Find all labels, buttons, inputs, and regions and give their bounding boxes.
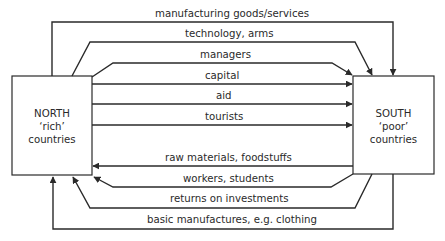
flow-label: capital xyxy=(205,70,239,81)
south-title: SOUTH xyxy=(376,108,412,119)
flow-label: workers, students xyxy=(183,173,274,184)
flow-label: manufacturing goods/services xyxy=(155,8,309,19)
north-box: NORTH ‘rich’ countries xyxy=(12,76,92,175)
flow-label: technology, arms xyxy=(185,28,274,39)
flow-workers-students: workers, students xyxy=(94,173,353,187)
flow-label: basic manufactures, e.g. clothing xyxy=(147,214,317,225)
north-south-flow-diagram: NORTH ‘rich’ countries SOUTH ‘poor’ coun… xyxy=(0,0,445,241)
south-countries-label: countries xyxy=(370,134,417,145)
flow-label: returns on investments xyxy=(170,193,288,204)
flow-tourists: tourists xyxy=(92,111,352,125)
north-title: NORTH xyxy=(34,108,70,119)
flow-raw-materials: raw materials, foodstuffs xyxy=(93,152,353,166)
flow-aid: aid xyxy=(92,90,352,104)
south-box: SOUTH ‘poor’ countries xyxy=(353,76,434,174)
flow-label: tourists xyxy=(205,111,243,122)
flow-label: aid xyxy=(216,90,232,101)
south-subtitle: ‘poor’ xyxy=(379,121,409,132)
flow-label: raw materials, foodstuffs xyxy=(165,152,292,163)
north-subtitle: ‘rich’ xyxy=(39,121,65,132)
flow-capital: capital xyxy=(92,70,352,84)
flow-label: managers xyxy=(200,49,251,60)
north-countries-label: countries xyxy=(28,134,75,145)
